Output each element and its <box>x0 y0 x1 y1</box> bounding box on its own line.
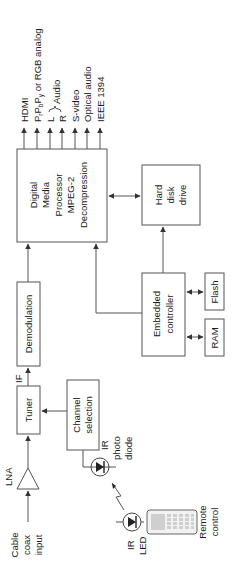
cable-input-label-1: Cable <box>9 533 20 558</box>
svg-text:disk: disk <box>165 186 176 203</box>
ir-led-label-2: LED <box>137 536 148 555</box>
remote-label-2: control <box>209 508 220 537</box>
output-hdmi-label: HDMI <box>19 98 30 122</box>
ram-block: RAM <box>205 319 224 356</box>
cable-input-label-2: coax <box>21 535 32 555</box>
output-arrows <box>24 128 100 149</box>
svg-text:Embedded: Embedded <box>151 291 162 337</box>
digital-media-processor-block: Digital Media Processor MPEG-2 Decompres… <box>17 149 107 242</box>
embedded-controller-block: Embedded controller <box>142 273 185 356</box>
audio-brace <box>49 106 61 112</box>
remote-label-1: Remote <box>197 505 208 538</box>
output-audio-left-label: L <box>45 117 56 122</box>
output-ieee1394-label: IEEE 1394 <box>95 77 106 122</box>
svg-text:Media: Media <box>40 181 51 208</box>
block-diagram: HDMI PrPbPy or RGB analog L R Audio S-vi… <box>0 0 236 562</box>
flash-block: Flash <box>205 273 224 310</box>
svg-text:RAM: RAM <box>209 327 220 348</box>
lna-label: LNA <box>3 467 14 486</box>
output-optical-audio-label: Optical audio <box>82 67 93 122</box>
svg-text:drive: drive <box>177 185 188 206</box>
output-audio-right-label: R <box>57 115 68 122</box>
ir-beam-icon <box>112 483 124 510</box>
svg-text:Demodulation: Demodulation <box>23 295 34 354</box>
svg-text:selection: selection <box>83 396 94 434</box>
photodiode-label-3: diode <box>123 437 134 460</box>
output-svideo-label: S-video <box>70 90 81 122</box>
output-component-label: PrPbPy or RGB analog <box>32 28 45 122</box>
cable-input-label-3: input <box>33 534 44 555</box>
ir-led-icon <box>116 513 144 531</box>
audio-label: Audio <box>51 80 62 104</box>
photodiode-label-2: photo <box>111 436 122 460</box>
photodiode-label-1: IR <box>99 440 110 450</box>
remote-control-icon <box>147 510 197 534</box>
lna-amplifier: LNA <box>3 436 39 522</box>
svg-text:Processor: Processor <box>53 174 64 217</box>
demodulation-block: Demodulation <box>17 282 40 366</box>
controller-dmp-link <box>96 244 142 313</box>
tuner-block: Tuner <box>17 386 40 434</box>
hard-disk-drive-block: Hard disk drive <box>142 165 200 225</box>
ir-led-label-1: IR <box>125 540 136 550</box>
if-label: IF <box>13 374 24 383</box>
svg-text:MPEG-2: MPEG-2 <box>65 177 76 213</box>
svg-text:Decompression: Decompression <box>78 162 89 228</box>
svg-text:Channel: Channel <box>71 397 82 432</box>
svg-text:Hard: Hard <box>153 185 164 206</box>
svg-text:controller: controller <box>164 294 175 333</box>
svg-text:Digital: Digital <box>28 182 39 208</box>
svg-text:Flash: Flash <box>209 280 220 303</box>
channel-selection-block: Channel selection <box>67 380 99 450</box>
svg-text:Tuner: Tuner <box>23 398 34 422</box>
